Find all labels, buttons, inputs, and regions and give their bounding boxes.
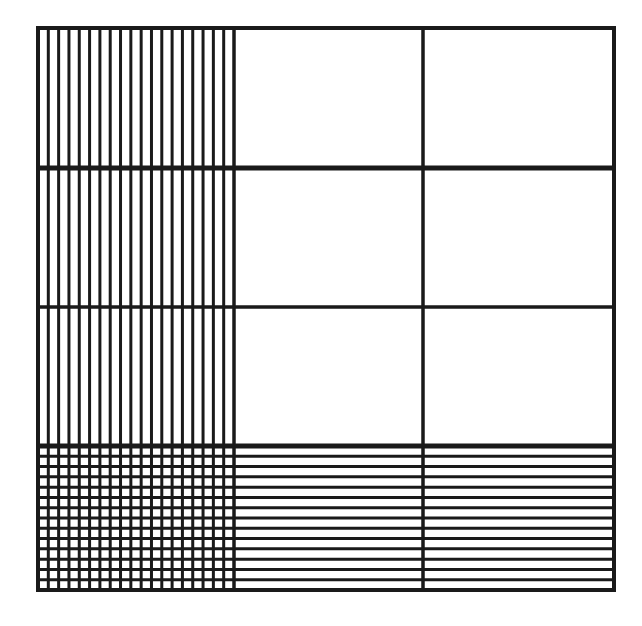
area-model-diagram <box>0 0 642 626</box>
horizontal-shading-lines <box>38 456 614 579</box>
vertical-shading-lines <box>48 28 223 590</box>
grid-lines <box>38 28 614 590</box>
outer-frame <box>38 28 614 590</box>
